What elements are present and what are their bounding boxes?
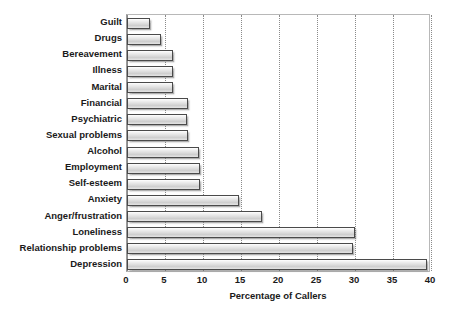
- bar: [127, 195, 239, 206]
- x-tick-label-10: 10: [197, 274, 208, 285]
- bar: [127, 18, 150, 29]
- bar-row: [127, 209, 431, 225]
- bar: [127, 50, 173, 61]
- x-tick-label-25: 25: [311, 274, 322, 285]
- y-axis-label: Depression: [2, 256, 122, 272]
- y-axis-label: Anxiety: [2, 191, 122, 207]
- x-tick-label-15: 15: [235, 274, 246, 285]
- x-tick-label-5: 5: [161, 274, 166, 285]
- bar-row: [127, 225, 431, 241]
- bar: [127, 34, 161, 45]
- bar-row: [127, 63, 431, 79]
- gridline-40: [431, 15, 432, 271]
- y-axis-label: Sexual problems: [2, 127, 122, 143]
- y-axis-label: Marital: [2, 79, 122, 95]
- bar: [127, 66, 173, 77]
- bar-row: [127, 47, 431, 63]
- bar-row: [127, 192, 431, 208]
- y-axis-label: Financial: [2, 95, 122, 111]
- bar-row: [127, 128, 431, 144]
- bar: [127, 163, 200, 174]
- bar: [127, 243, 353, 254]
- x-tick-label-40: 40: [425, 274, 436, 285]
- x-tick-label-35: 35: [387, 274, 398, 285]
- y-axis-label: Drugs: [2, 30, 122, 46]
- x-axis-title: Percentage of Callers: [126, 290, 430, 301]
- bar-series: [127, 15, 429, 271]
- bar-row: [127, 31, 431, 47]
- y-axis-category-labels: GuiltDrugsBereavementIllnessMaritalFinan…: [0, 14, 122, 272]
- y-axis-label: Guilt: [2, 14, 122, 30]
- y-axis-label: Relationship problems: [2, 240, 122, 256]
- x-tick-label-20: 20: [273, 274, 284, 285]
- y-axis-label: Psychiatric: [2, 111, 122, 127]
- bar: [127, 130, 188, 141]
- bar-row: [127, 257, 431, 273]
- chart-container: GuiltDrugsBereavementIllnessMaritalFinan…: [0, 0, 458, 320]
- y-axis-label: Illness: [2, 62, 122, 78]
- bar-row: [127, 144, 431, 160]
- y-axis-label: Alcohol: [2, 143, 122, 159]
- bar-row: [127, 176, 431, 192]
- bar: [127, 114, 187, 125]
- bar: [127, 179, 200, 190]
- y-axis-label: Self-esteem: [2, 175, 122, 191]
- bar: [127, 147, 199, 158]
- bar: [127, 211, 262, 222]
- bar: [127, 227, 355, 238]
- y-axis-label: Loneliness: [2, 224, 122, 240]
- bar-row: [127, 112, 431, 128]
- x-tick-label-0: 0: [123, 274, 128, 285]
- bar-row: [127, 241, 431, 257]
- y-axis-label: Bereavement: [2, 46, 122, 62]
- bar-row: [127, 96, 431, 112]
- bar-row: [127, 160, 431, 176]
- plot-area: [126, 14, 430, 272]
- x-tick-label-30: 30: [349, 274, 360, 285]
- bar: [127, 82, 173, 93]
- y-axis-label: Anger/frustration: [2, 208, 122, 224]
- bar: [127, 98, 188, 109]
- bar: [127, 259, 427, 270]
- y-axis-label: Employment: [2, 159, 122, 175]
- bar-row: [127, 80, 431, 96]
- bar-row: [127, 15, 431, 31]
- x-axis-tick-labels: 0510152025303540: [126, 274, 430, 288]
